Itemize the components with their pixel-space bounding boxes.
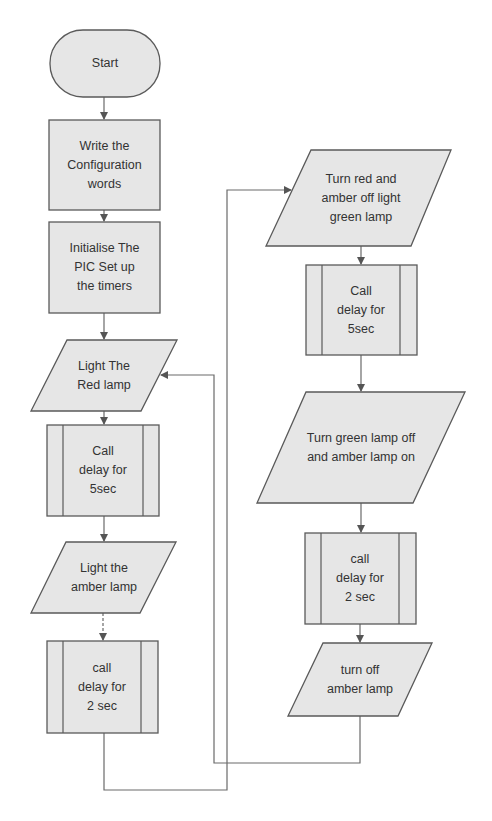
label-light-green: Turn red and amber off light green lamp xyxy=(290,150,432,246)
label-amber-off: turn off amber lamp xyxy=(305,643,415,716)
label-delay-5-left: Call delay for 5sec xyxy=(63,425,143,516)
label-light-amber: Light the amber lamp xyxy=(44,542,164,613)
label-delay-2-left: call delay for 2 sec xyxy=(63,641,141,733)
label-write-config: Write the Configuration words xyxy=(49,120,160,210)
label-start: Start xyxy=(50,30,160,97)
label-light-red: Light The Red lamp xyxy=(44,340,164,411)
label-delay-2-right: call delay for 2 sec xyxy=(321,533,399,624)
label-green-off-amber-on: Turn green lamp off and amber lamp on xyxy=(276,392,446,503)
label-init-pic: Initialise The PIC Set up the timers xyxy=(49,222,160,313)
label-delay-5-right: Call delay for 5sec xyxy=(322,265,400,355)
